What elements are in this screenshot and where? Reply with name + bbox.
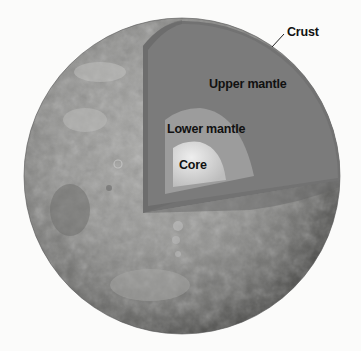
planet-sphere (0, 0, 361, 351)
crust-leader-line (272, 34, 284, 47)
cutaway-section (143, 20, 342, 213)
planet-interior-diagram: Crust Upper mantle Lower mantle Core (0, 0, 361, 351)
upper-mantle-label: Upper mantle (209, 77, 286, 91)
crust-label: Crust (287, 25, 319, 39)
lower-mantle-label: Lower mantle (167, 122, 245, 136)
core-label: Core (179, 158, 207, 172)
